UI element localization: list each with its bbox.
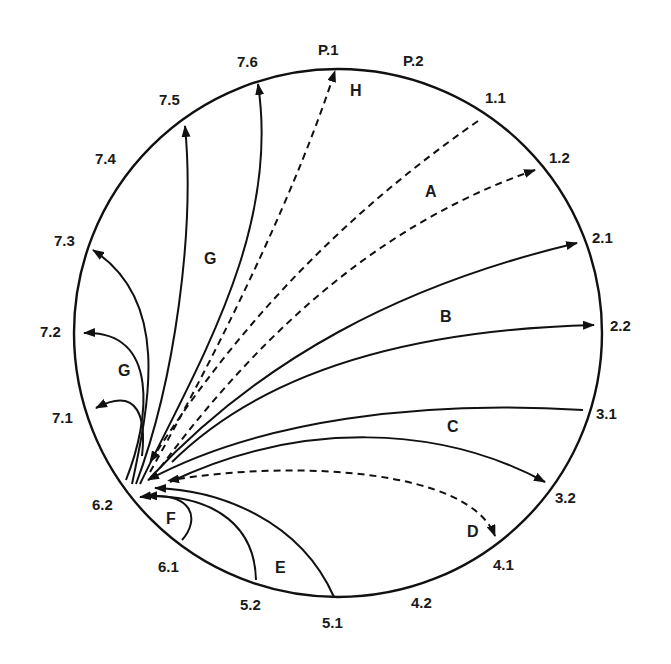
region-label-c: C [447, 418, 459, 435]
label-6-1: 6.1 [158, 558, 179, 575]
edge-g-to-7-6 [140, 84, 262, 484]
label-7-2: 7.2 [40, 323, 61, 340]
label-3-1: 3.1 [596, 405, 617, 422]
region-label-d: D [467, 523, 479, 540]
edge-c-to-3-2 [170, 437, 545, 482]
label-1-1: 1.1 [485, 89, 506, 106]
label-7-3: 7.3 [54, 232, 75, 249]
edge-b-to-2-1 [150, 243, 577, 478]
label-3-2: 3.2 [555, 489, 576, 506]
label-7-5: 7.5 [159, 91, 180, 108]
region-label-h: H [350, 82, 362, 99]
edge-b-to-2-2 [172, 325, 594, 462]
label-5-2: 5.2 [240, 596, 261, 613]
region-label-a: A [425, 183, 437, 200]
region-label-g-upper: G [204, 250, 216, 267]
label-2-1: 2.1 [592, 229, 613, 246]
edge-h-to-p1 [150, 71, 335, 472]
edge-a-to-1-2 [160, 170, 535, 468]
circular-transition-diagram: P.1 P.2 1.1 1.2 2.1 2.2 3.1 3.2 4.1 4.2 … [0, 0, 671, 664]
edge-d-to-4-1 [178, 470, 495, 536]
label-2-2: 2.2 [610, 317, 631, 334]
label-6-2: 6.2 [92, 496, 113, 513]
label-7-6: 7.6 [237, 53, 258, 70]
region-label-f: F [166, 510, 176, 527]
region-label-b: B [440, 308, 452, 325]
label-7-1: 7.1 [52, 409, 73, 426]
label-p1: P.1 [318, 41, 339, 58]
label-5-1: 5.1 [322, 614, 343, 631]
region-label-g-lower: G [118, 362, 130, 379]
label-7-4: 7.4 [95, 150, 117, 167]
label-1-2: 1.2 [549, 149, 570, 166]
label-4-1: 4.1 [493, 556, 514, 573]
region-label-e: E [275, 559, 286, 576]
label-p2: P.2 [403, 52, 424, 69]
label-4-2: 4.2 [411, 594, 432, 611]
